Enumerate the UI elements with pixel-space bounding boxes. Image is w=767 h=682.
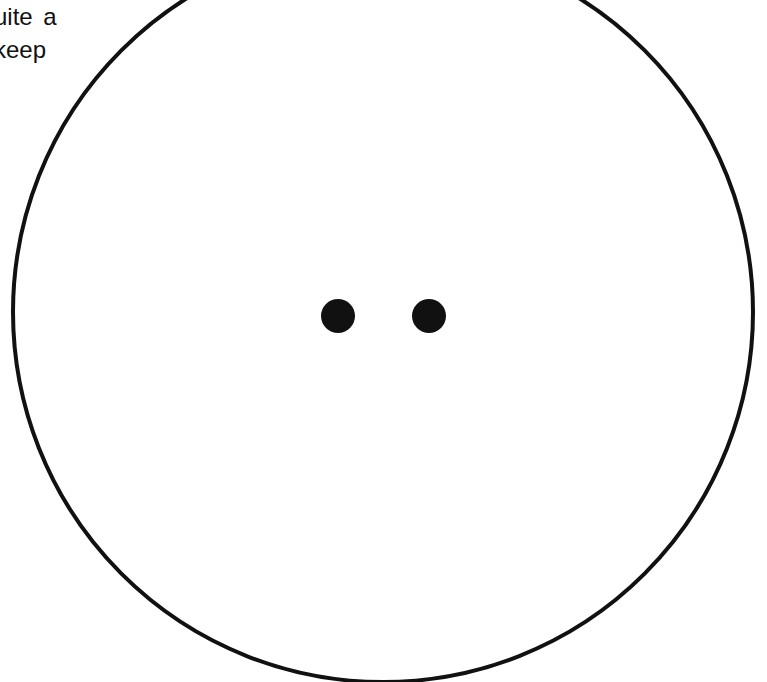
right-dot xyxy=(412,299,446,333)
circle-figure xyxy=(0,0,767,682)
left-dot xyxy=(321,299,355,333)
large-circle xyxy=(13,0,753,682)
